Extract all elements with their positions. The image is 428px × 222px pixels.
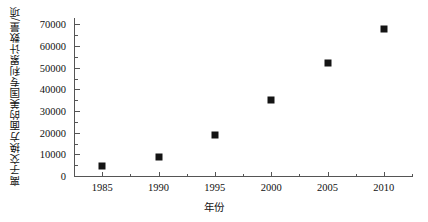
data-point-marker <box>211 131 218 138</box>
data-point-marker <box>380 25 387 32</box>
x-axis-tick-label: 1995 <box>204 182 225 193</box>
scatter-chart: 离子交换方面的美国专利累计数量/项 0100002000030000400005… <box>0 0 428 222</box>
data-point-marker <box>99 163 106 170</box>
x-axis-tick-label: 2005 <box>317 182 338 193</box>
x-axis-title: 年份 <box>0 199 428 214</box>
plot-area <box>74 18 412 176</box>
data-point-marker <box>155 153 162 160</box>
data-point-marker <box>324 60 331 67</box>
x-axis-tick-label: 1990 <box>148 182 169 193</box>
data-point-marker <box>268 97 275 104</box>
x-axis-tick-label: 2000 <box>261 182 282 193</box>
axis-lines <box>74 18 412 176</box>
x-axis-tick-label: 1985 <box>92 182 113 193</box>
x-axis-tick-label: 2010 <box>373 182 394 193</box>
